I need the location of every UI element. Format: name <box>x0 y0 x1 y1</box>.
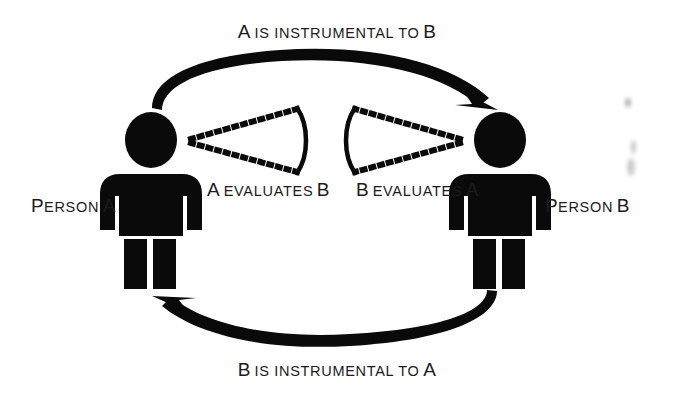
label-person-b: PERSON B <box>545 196 630 215</box>
label-person-a: PERSON A <box>31 196 116 215</box>
label-person-a-lead: P <box>31 195 44 216</box>
label-eval-ba-tail: A <box>466 179 479 200</box>
label-top-lead: A <box>238 21 251 42</box>
bottom-arrow-b-to-a <box>152 290 497 347</box>
label-eval-ab-rest: EVALUATES <box>220 183 317 199</box>
diagram-canvas: A IS INSTRUMENTAL TO B B IS INSTRUMENTAL… <box>0 0 674 396</box>
person-b-figure-icon <box>449 112 551 289</box>
gaze-arc-cap-b <box>346 108 355 173</box>
label-a-evaluates-b: A EVALUATES B <box>207 180 330 199</box>
label-person-b-lead: P <box>545 195 558 216</box>
label-b-evaluates-a: B EVALUATES A <box>356 180 479 199</box>
label-person-b-tail: B <box>617 195 630 216</box>
label-bottom-arrow: B IS INSTRUMENTAL TO A <box>238 360 437 379</box>
label-eval-ab-tail: B <box>317 179 330 200</box>
label-top-rest: IS INSTRUMENTAL TO <box>251 25 423 41</box>
label-eval-ba-rest: EVALUATES <box>369 183 466 199</box>
gaze-cone-a-evaluates-b <box>191 108 306 173</box>
label-person-a-rest: ERSON <box>44 199 103 215</box>
label-bottom-rest: IS INSTRUMENTAL TO <box>251 363 423 379</box>
label-person-a-tail: A <box>103 195 116 216</box>
gaze-arc-cap-a <box>297 108 306 173</box>
label-eval-ab-lead: A <box>207 179 220 200</box>
label-person-b-rest: ERSON <box>558 199 617 215</box>
label-top-tail: B <box>423 21 436 42</box>
label-eval-ba-lead: B <box>356 179 369 200</box>
gaze-cone-b-evaluates-a <box>346 108 460 173</box>
label-top-arrow: A IS INSTRUMENTAL TO B <box>238 22 437 41</box>
top-arrow-a-to-b <box>152 49 498 110</box>
label-bottom-lead: B <box>238 359 251 380</box>
label-bottom-tail: A <box>423 359 436 380</box>
